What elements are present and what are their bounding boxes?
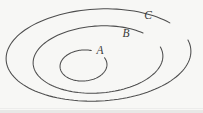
nested-ellipses-diagram: C B A xyxy=(0,0,203,113)
page-edge-shade-lower xyxy=(0,110,203,113)
region-label-c: C xyxy=(144,9,152,21)
region-label-b: B xyxy=(122,27,129,39)
page-edge-shade-upper xyxy=(0,108,203,109)
region-group-b: B xyxy=(33,26,163,93)
region-outline-b xyxy=(33,26,163,93)
region-label-a: A xyxy=(95,44,104,56)
region-group-a: A xyxy=(60,44,107,81)
figure-container: C B A xyxy=(0,0,203,113)
